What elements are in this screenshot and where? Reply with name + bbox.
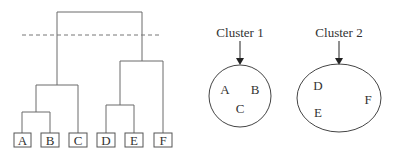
root-link bbox=[57, 12, 142, 85]
cluster-2-title: Cluster 2 bbox=[315, 25, 362, 40]
leaf-d: D bbox=[97, 133, 115, 148]
cluster-2: Cluster 2 D E F bbox=[297, 25, 381, 132]
leaf-label: F bbox=[159, 133, 166, 148]
cluster-1: Cluster 1 A B C bbox=[209, 25, 271, 127]
leaf-label: D bbox=[101, 133, 110, 148]
leaf-e: E bbox=[125, 133, 143, 148]
dendrogram-cluster-diagram: A B C D E F Cluster 1 A bbox=[0, 0, 395, 151]
link-de-f bbox=[120, 61, 163, 133]
member-label: F bbox=[364, 92, 371, 107]
leaf-c: C bbox=[69, 133, 87, 148]
member-label: E bbox=[314, 105, 322, 120]
leaf-label: E bbox=[130, 133, 138, 148]
link-ab-c bbox=[36, 85, 78, 133]
cluster-1-circle bbox=[209, 65, 271, 127]
member-label: D bbox=[313, 78, 322, 93]
member-label: C bbox=[236, 101, 245, 116]
link-d-e bbox=[106, 105, 134, 133]
leaf-label: B bbox=[46, 133, 55, 148]
leaf-f: F bbox=[154, 133, 172, 148]
member-label: A bbox=[220, 82, 230, 97]
dendrogram: A B C D E F bbox=[14, 12, 172, 148]
leaf-label: A bbox=[18, 133, 28, 148]
leaf-label: C bbox=[74, 133, 83, 148]
leaf-b: B bbox=[41, 133, 59, 148]
leaf-a: A bbox=[14, 133, 31, 148]
link-a-b bbox=[22, 112, 50, 133]
arrowhead-icon bbox=[236, 58, 244, 65]
cluster-1-title: Cluster 1 bbox=[216, 25, 263, 40]
member-label: B bbox=[251, 82, 260, 97]
